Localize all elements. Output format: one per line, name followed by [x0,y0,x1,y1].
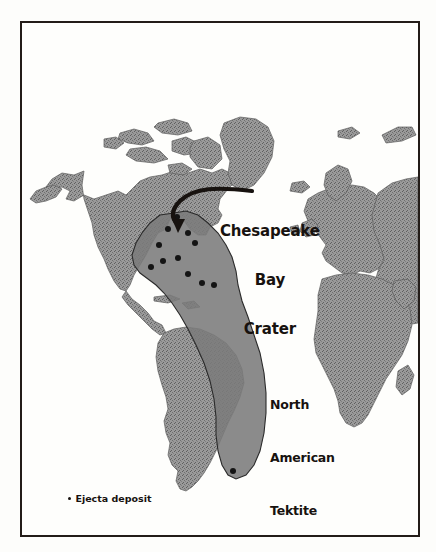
ejecta-dot [192,240,198,246]
ejecta-dot [199,280,205,286]
ejecta-dot [185,271,191,277]
world-map-canvas [22,23,418,535]
map-frame: Chesapeake Bay Crater North American Tek… [20,21,420,537]
ejecta-dot [185,230,191,236]
ejecta-dot [148,264,154,270]
land-ireland [290,225,300,235]
figure-root: Chesapeake Bay Crater North American Tek… [0,0,436,552]
ejecta-dot [156,242,162,248]
ejecta-dot [175,255,181,261]
ejecta-dot [165,226,171,232]
map-legend: Ejecta deposit [68,493,152,504]
ejecta-deposit-legend-dot-icon [68,497,71,500]
ejecta-dot [160,258,166,264]
ejecta-dot [230,468,236,474]
ejecta-dot [211,282,217,288]
legend-label: Ejecta deposit [75,493,151,504]
